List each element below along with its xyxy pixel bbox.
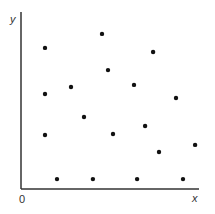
data-point [43, 46, 47, 50]
data-point [106, 68, 110, 72]
data-point [91, 177, 95, 181]
data-point [132, 83, 136, 87]
data-point [143, 124, 147, 128]
data-point [82, 115, 86, 119]
data-point [69, 85, 73, 89]
x-axis-label: x [191, 192, 198, 204]
data-point [174, 96, 178, 100]
data-point [181, 177, 185, 181]
data-point [151, 50, 155, 54]
scatter-plot: y x 0 [0, 0, 215, 214]
data-point [100, 32, 104, 36]
data-point [111, 132, 115, 136]
data-point [157, 150, 161, 154]
y-axis-label: y [9, 13, 17, 25]
data-point [193, 143, 197, 147]
origin-label: 0 [19, 193, 25, 205]
data-point [55, 177, 59, 181]
data-points [43, 32, 198, 182]
data-point [135, 177, 139, 181]
data-point [43, 133, 47, 137]
data-point [43, 92, 47, 96]
